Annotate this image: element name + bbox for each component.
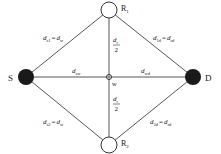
label-s-r2: ds2=dsr xyxy=(43,118,64,127)
label-s-r1: ds1=dsr xyxy=(43,34,64,43)
source-label: S xyxy=(8,73,13,83)
svg-text:dr: dr xyxy=(113,36,119,45)
destination-node-icon xyxy=(185,69,201,85)
destination-label: D xyxy=(205,73,212,83)
edge-s-r2 xyxy=(26,77,109,145)
label-s-w: dsw xyxy=(72,67,81,76)
edge-r2-d xyxy=(109,77,193,145)
label-r1-d: d1d=drd xyxy=(153,34,175,43)
relay1-label: R1 xyxy=(121,4,129,14)
edge-r1-d xyxy=(109,10,193,77)
relay1-node-icon xyxy=(101,2,117,18)
edge-s-r1 xyxy=(26,10,109,77)
label-w-r1: dr 2 xyxy=(113,36,120,54)
svg-text:2: 2 xyxy=(115,105,119,113)
relay-network-diagram: S D R1 R2 w ds1=dsr d1d=drd ds2=dsr d2d=… xyxy=(0,0,221,154)
label-w-d: dwd xyxy=(141,67,151,76)
relay2-node-icon xyxy=(101,137,117,153)
midpoint-label: w xyxy=(112,80,117,87)
label-w-r2: dr 2 xyxy=(113,95,120,113)
source-node-icon xyxy=(18,69,34,85)
relay2-label: R2 xyxy=(121,139,129,149)
svg-text:dr: dr xyxy=(113,95,119,104)
label-r2-d: d2d=drd xyxy=(150,118,172,127)
svg-text:2: 2 xyxy=(115,46,119,54)
